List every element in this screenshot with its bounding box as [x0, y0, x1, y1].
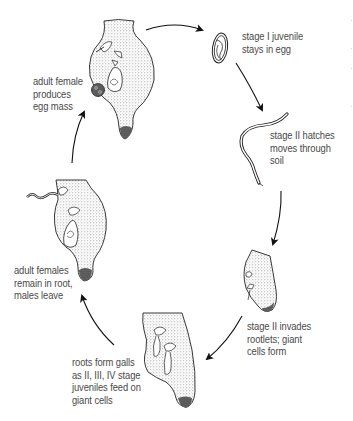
label-stage-ii-invades: stage II invades rootlets; giant cells f…: [247, 321, 311, 359]
arrow-adult-root-to-egg-mass: [72, 112, 84, 163]
label-stage-ii-hatches: stage II hatches moves through soil: [270, 130, 335, 168]
arrow-invade-to-galls: [207, 316, 242, 359]
arrow-galls-to-adult-root: [82, 296, 114, 345]
root-gall-icon: [143, 313, 196, 408]
life-cycle-diagram: adult female produces egg mass stage I j…: [0, 0, 353, 421]
label-adult-females-remain: adult females remain in root, males leav…: [14, 265, 73, 303]
label-roots-form-galls: roots form galls as II, III, IV stage ju…: [72, 357, 141, 407]
root-gall-with-egg-mass-icon: [89, 20, 154, 140]
edge-mark: [351, 68, 352, 69]
arrow-egg-to-hatch: [236, 63, 262, 110]
edge-mark: [351, 48, 352, 49]
label-adult-female-egg-mass: adult female produces egg mass: [33, 76, 83, 114]
egg-with-coiled-juvenile-icon: [210, 32, 229, 64]
arrow-egg-mass-to-egg: [146, 25, 202, 30]
rootlet-tip-icon: [244, 250, 277, 312]
edge-mark: [351, 20, 352, 21]
edge-mark: [351, 106, 352, 107]
label-stage-i-egg: stage I juvenile stays in egg: [242, 31, 303, 56]
arrow-hatch-to-invade: [273, 191, 281, 244]
